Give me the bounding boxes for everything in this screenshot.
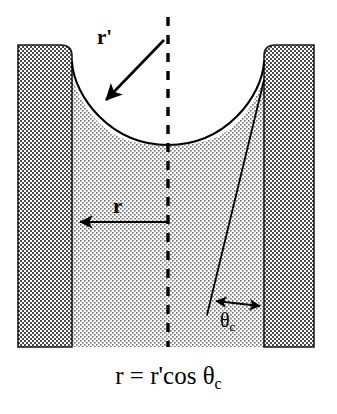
- label-theta-c: θc: [220, 310, 235, 333]
- caption-formula: r = r'cos θc: [0, 362, 337, 392]
- left-wall-shape: [18, 45, 72, 347]
- formula-equals: =: [130, 362, 144, 389]
- diagram-canvas: [0, 0, 337, 414]
- left-capillary-wall: [18, 45, 72, 347]
- r-prime-arrow: [106, 40, 164, 100]
- formula-rhs-prefix: r'cos: [150, 362, 196, 389]
- theta-subscript-c: c: [230, 319, 236, 334]
- label-r-prime: r': [97, 27, 112, 48]
- formula-theta-subscript: c: [215, 375, 222, 392]
- label-r: r: [113, 196, 122, 217]
- theta-glyph: θ: [220, 309, 230, 331]
- right-wall-shape: [264, 45, 314, 347]
- formula-theta-glyph: θ: [203, 362, 215, 389]
- formula-lhs: r: [115, 362, 123, 389]
- capillary-meniscus-diagram: r' r θc r = r'cos θc: [0, 0, 337, 414]
- right-capillary-wall: [264, 45, 314, 347]
